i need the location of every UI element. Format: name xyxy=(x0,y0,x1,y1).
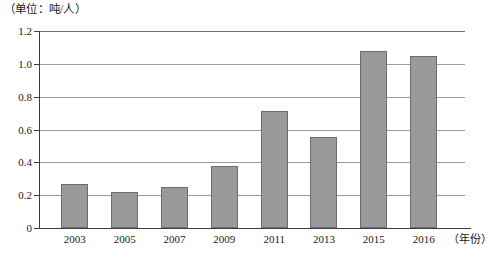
y-axis-tick-label: 1.0 xyxy=(2,59,32,70)
y-axis-tick-mark xyxy=(34,228,39,229)
y-axis-tick-label: 0.6 xyxy=(2,125,32,136)
y-axis-tick-label: 0.8 xyxy=(2,92,32,103)
bar xyxy=(261,111,288,228)
bar xyxy=(111,192,138,228)
y-axis-tick-mark xyxy=(34,195,39,196)
x-axis-line xyxy=(39,228,471,229)
y-axis-tick-mark xyxy=(34,162,39,163)
bar xyxy=(360,51,387,228)
bar xyxy=(211,166,238,228)
bar xyxy=(410,56,437,228)
y-axis-tick-mark xyxy=(34,31,39,32)
bar xyxy=(161,187,188,228)
bar xyxy=(61,184,88,228)
x-axis-tick-labels: （年份） 20032005200720092011201320152016 xyxy=(0,233,490,253)
y-axis-tick-mark xyxy=(34,64,39,65)
bar xyxy=(310,137,337,228)
y-axis-tick-labels: 1.21.00.80.60.40.20 xyxy=(0,0,32,264)
y-axis-tick-mark xyxy=(34,97,39,98)
y-axis-tick-label: 1.2 xyxy=(2,26,32,37)
y-axis-tick-label: 0.2 xyxy=(2,190,32,201)
y-axis-tick-mark xyxy=(34,130,39,131)
x-axis-unit-label: （年份） xyxy=(448,233,490,246)
bars-layer xyxy=(39,31,465,228)
y-axis-tick-label: 0.4 xyxy=(2,157,32,168)
x-axis-tick-label: 2016 xyxy=(394,233,454,246)
bar-chart: （单位：吨/人） 1.21.00.80.60.40.20 （年份） 200320… xyxy=(0,0,490,264)
